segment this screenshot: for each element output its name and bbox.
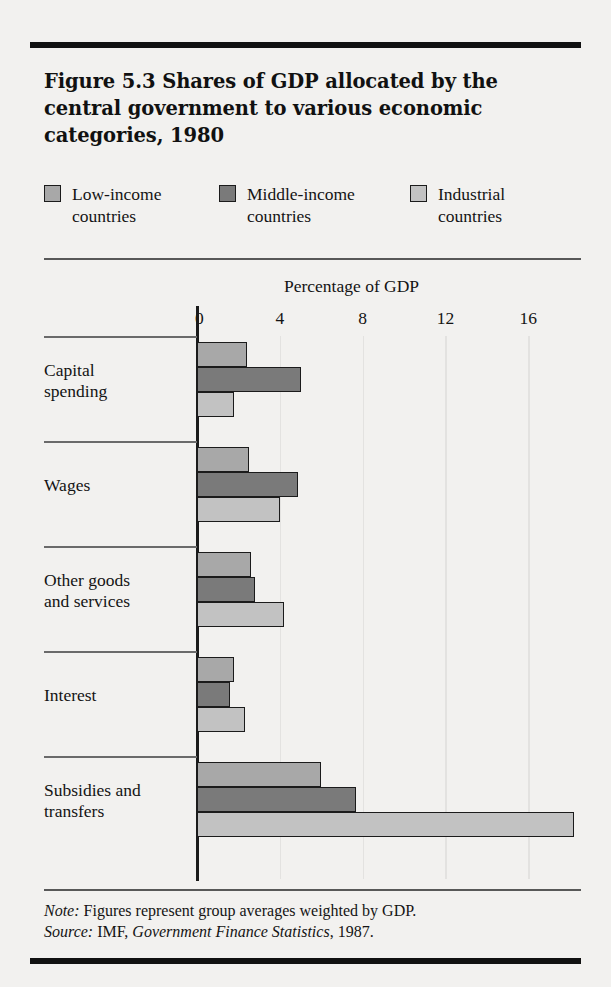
bar[interactable] bbox=[197, 342, 247, 367]
legend-label-middle-income: Middle-income countries bbox=[247, 183, 355, 227]
figure-footnotes: Note: Figures represent group averages w… bbox=[44, 900, 584, 942]
source-line: Source: IMF, Government Finance Statisti… bbox=[44, 921, 584, 942]
footer-divider bbox=[44, 889, 581, 891]
legend-item-low-income[interactable]: Low-income countries bbox=[44, 183, 161, 227]
x-tick-label-16: 16 bbox=[519, 308, 537, 329]
bar[interactable] bbox=[197, 472, 298, 497]
bar[interactable] bbox=[197, 602, 284, 627]
bar[interactable] bbox=[197, 657, 234, 682]
bar[interactable] bbox=[197, 367, 301, 392]
chart-plot-area: Percentage of GDP 0481216 Capital spendi… bbox=[0, 268, 611, 888]
bar[interactable] bbox=[197, 787, 356, 812]
bar[interactable] bbox=[197, 447, 249, 472]
note-text: Figures represent group averages weighte… bbox=[80, 902, 417, 919]
bottom-rule bbox=[30, 958, 581, 964]
bar[interactable] bbox=[197, 682, 230, 707]
legend-divider bbox=[44, 258, 581, 260]
legend-swatch-middle-income bbox=[219, 185, 236, 202]
gridline-12 bbox=[445, 336, 446, 879]
figure-title: Figure 5.3 Shares of GDP allocated by th… bbox=[44, 68, 549, 149]
x-axis-title: Percentage of GDP bbox=[284, 276, 419, 297]
category-rule bbox=[44, 651, 197, 653]
legend-item-middle-income[interactable]: Middle-income countries bbox=[219, 183, 355, 227]
bar[interactable] bbox=[197, 392, 234, 417]
category-label: Wages bbox=[44, 475, 90, 496]
legend-label-industrial: Industrial countries bbox=[438, 183, 505, 227]
bar[interactable] bbox=[197, 762, 321, 787]
bar[interactable] bbox=[197, 707, 245, 732]
x-tick-label-4: 4 bbox=[275, 308, 284, 329]
category-label: Other goods and services bbox=[44, 570, 130, 612]
category-rule bbox=[44, 336, 197, 338]
note-label: Note: bbox=[44, 902, 80, 919]
category-rule bbox=[44, 756, 197, 758]
gridline-8 bbox=[363, 336, 364, 879]
figure-page: Figure 5.3 Shares of GDP allocated by th… bbox=[0, 0, 611, 987]
source-label: Source: bbox=[44, 923, 93, 940]
legend-swatch-low-income bbox=[44, 185, 61, 202]
category-rule bbox=[44, 546, 197, 548]
x-tick-label-12: 12 bbox=[437, 308, 455, 329]
bar[interactable] bbox=[197, 552, 251, 577]
x-tick-label-8: 8 bbox=[358, 308, 367, 329]
source-text-a: IMF, bbox=[93, 923, 132, 940]
category-label: Capital spending bbox=[44, 360, 107, 402]
category-rule bbox=[44, 441, 197, 443]
source-text-b: , 1987. bbox=[330, 923, 374, 940]
legend-swatch-industrial bbox=[410, 185, 427, 202]
top-rule bbox=[30, 42, 581, 48]
note-line: Note: Figures represent group averages w… bbox=[44, 900, 584, 921]
bar[interactable] bbox=[197, 497, 280, 522]
gridline-16 bbox=[528, 336, 529, 879]
bar[interactable] bbox=[197, 812, 574, 837]
category-label: Subsidies and transfers bbox=[44, 780, 141, 822]
legend-item-industrial[interactable]: Industrial countries bbox=[410, 183, 505, 227]
legend: Low-income countries Middle-income count… bbox=[44, 183, 564, 235]
bar[interactable] bbox=[197, 577, 255, 602]
category-label: Interest bbox=[44, 685, 96, 706]
source-publication: Government Finance Statistics bbox=[132, 923, 329, 940]
legend-label-low-income: Low-income countries bbox=[72, 183, 161, 227]
